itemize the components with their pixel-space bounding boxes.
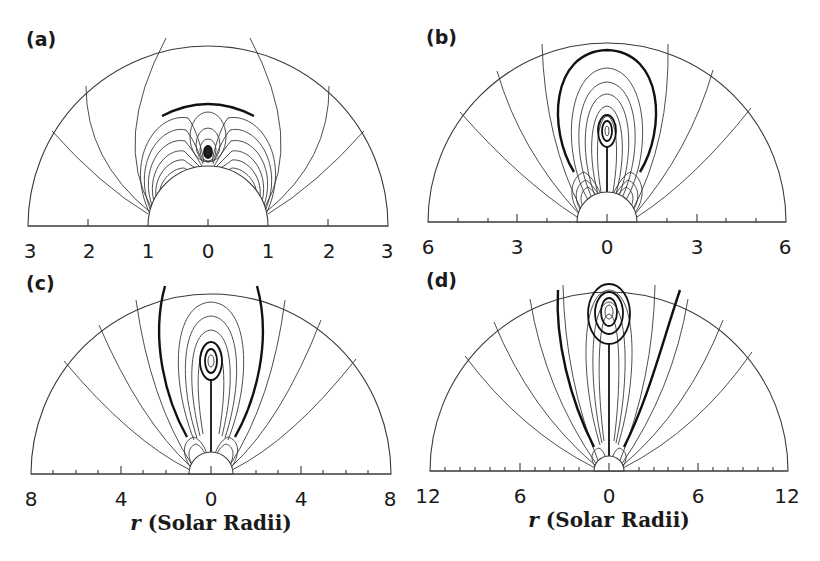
panel-a: (a) bbox=[24, 28, 394, 263]
svg-text:6: 6 bbox=[779, 235, 792, 259]
tick-labels-c: 8 4 0 4 8 bbox=[25, 487, 397, 511]
svg-text:2: 2 bbox=[323, 239, 336, 263]
x-ticks-d bbox=[445, 463, 773, 471]
field-lines-b bbox=[460, 44, 751, 217]
x-axis-title-c: r (Solar Radii) bbox=[130, 511, 292, 535]
svg-text:6: 6 bbox=[692, 484, 705, 508]
tick-labels-d: 12 6 0 6 12 bbox=[415, 484, 799, 508]
svg-text:3: 3 bbox=[24, 239, 37, 263]
flux-rope-b bbox=[598, 115, 616, 147]
panel-label-d: (d) bbox=[426, 269, 457, 291]
svg-text:6: 6 bbox=[514, 484, 527, 508]
svg-text:0: 0 bbox=[202, 239, 215, 263]
svg-text:4: 4 bbox=[295, 487, 308, 511]
svg-text:0: 0 bbox=[205, 487, 218, 511]
panel-label-b: (b) bbox=[426, 26, 457, 48]
tick-labels-a: 3 2 1 0 1 2 3 bbox=[24, 239, 394, 263]
x-ticks-c bbox=[53, 466, 368, 474]
svg-text:4: 4 bbox=[115, 487, 128, 511]
tick-labels-b: 6 3 0 3 6 bbox=[422, 235, 792, 259]
figure: (a) bbox=[0, 0, 820, 561]
svg-text:12: 12 bbox=[774, 484, 799, 508]
flux-rope-c bbox=[200, 342, 222, 380]
sun-disk-a bbox=[148, 166, 268, 226]
svg-text:0: 0 bbox=[603, 484, 616, 508]
svg-text:2: 2 bbox=[83, 239, 96, 263]
svg-text:12: 12 bbox=[415, 484, 440, 508]
panel-d: (d) bbox=[415, 269, 799, 532]
svg-text:8: 8 bbox=[384, 487, 397, 511]
flux-rope-core-a bbox=[204, 146, 212, 158]
panel-label-c: (c) bbox=[26, 272, 55, 294]
x-ticks-a bbox=[88, 219, 328, 226]
svg-text:3: 3 bbox=[691, 235, 704, 259]
panel-b: (b) bbox=[422, 26, 792, 259]
svg-text:3: 3 bbox=[511, 235, 524, 259]
svg-text:3: 3 bbox=[381, 239, 394, 263]
svg-text:8: 8 bbox=[25, 487, 38, 511]
panel-c: (c) bbox=[25, 272, 397, 535]
svg-text:0: 0 bbox=[601, 235, 614, 259]
svg-text:1: 1 bbox=[262, 239, 275, 263]
svg-text:1: 1 bbox=[142, 239, 155, 263]
x-ticks-b bbox=[458, 214, 756, 222]
panel-label-a: (a) bbox=[26, 28, 56, 50]
x-axis-title-d: r (Solar Radii) bbox=[528, 508, 690, 532]
separatrix-a bbox=[162, 104, 254, 116]
svg-text:6: 6 bbox=[422, 235, 435, 259]
